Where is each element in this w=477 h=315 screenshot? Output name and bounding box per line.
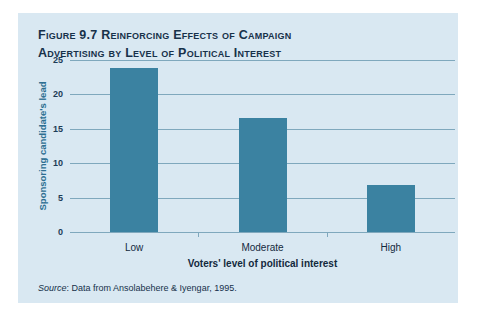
gridline bbox=[70, 232, 455, 233]
figure-title: Figure 9.7 Reinforcing Effects of Campai… bbox=[38, 26, 438, 62]
gridline bbox=[70, 60, 455, 61]
source-citation: Data from Ansolabehere & Iyengar, 1995. bbox=[72, 283, 237, 293]
x-axis-tick bbox=[198, 232, 199, 237]
y-axis-tick-label: 20 bbox=[53, 89, 63, 99]
figure-title-line-1: Figure 9.7 Reinforcing Effects of Campai… bbox=[38, 28, 292, 42]
bar-low bbox=[110, 68, 158, 232]
plot-region: 0510152025LowModerateHigh bbox=[70, 60, 455, 232]
figure-title-line-2: Advertising by Level of Political Intere… bbox=[38, 46, 281, 60]
y-axis-tick-label: 25 bbox=[53, 55, 63, 65]
chart-plot-area: 0510152025LowModerateHigh bbox=[70, 60, 455, 232]
y-axis-tick-label: 15 bbox=[53, 124, 63, 134]
y-axis-tick-label: 10 bbox=[53, 158, 63, 168]
x-axis-tick bbox=[327, 232, 328, 237]
x-axis-tick-label-low: Low bbox=[125, 242, 143, 253]
x-axis-tick-label-moderate: Moderate bbox=[241, 242, 283, 253]
bar-moderate bbox=[239, 118, 287, 232]
y-axis-title: Sponsoring candidate's lead bbox=[36, 60, 50, 232]
bar-high bbox=[367, 185, 415, 232]
source-label: Source bbox=[38, 283, 67, 293]
x-axis-title: Voters' level of political interest bbox=[70, 258, 455, 269]
figure-panel: Figure 9.7 Reinforcing Effects of Campai… bbox=[18, 13, 458, 303]
y-axis-tick-label: 0 bbox=[58, 227, 63, 237]
y-axis-tick-label: 5 bbox=[58, 193, 63, 203]
source-note: Source: Data from Ansolabehere & Iyengar… bbox=[38, 283, 237, 293]
x-axis-tick-label-high: High bbox=[381, 242, 402, 253]
